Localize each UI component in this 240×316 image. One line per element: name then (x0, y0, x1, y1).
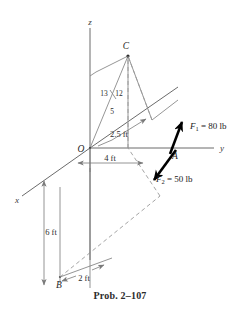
force-f1-label: F1 = 80 lb (189, 121, 227, 132)
dim-2-5-ft-group: 2.5 ft (98, 119, 146, 146)
y-axis-label: y (219, 143, 224, 153)
construction-group (59, 54, 178, 278)
force-f2-label: F2 = 50 lb (155, 174, 193, 185)
force-f1-value: 80 lb (208, 121, 227, 131)
axis-group (22, 28, 214, 260)
dim-4-ft-group: 4 ft (78, 148, 143, 172)
dim-2-5-ft-label: 2.5 ft (110, 129, 129, 139)
x-axis-label: x (14, 195, 19, 205)
figure-caption: Prob. 2–107 (0, 290, 240, 301)
dim-2-ft-left-arrow (62, 276, 76, 281)
point-a-label: A (171, 151, 178, 161)
line-c-to-z-axis (96, 56, 128, 72)
x-axis-line (22, 148, 90, 196)
dashed-mid-to-base (128, 148, 160, 196)
force-f1-equals: = (199, 121, 209, 131)
slope-triangle-hypotenuse-label: 13 (100, 89, 108, 98)
z-axis-label: z (87, 17, 92, 27)
dim-4-ft-label: 4 ft (104, 153, 116, 163)
dim-2-ft-right-arrow (92, 265, 104, 270)
dim-6-ft-label: 6 ft (45, 227, 57, 237)
force-f2-value: 50 lb (174, 174, 193, 184)
line-base-corner-to-oblique (152, 100, 178, 120)
statics-diagram: 2.5 ft 4 ft 6 ft 2 ft 13 12 5 (0, 0, 240, 316)
dim-2-ft-label: 2 ft (78, 273, 90, 283)
line-z-tie-segment (90, 72, 96, 76)
dashed-group (60, 56, 160, 277)
figure-root: 2.5 ft 4 ft 6 ft 2 ft 13 12 5 (0, 0, 240, 316)
point-c-label: C (123, 41, 130, 51)
point-b-label: B (56, 280, 62, 290)
point-o-label: O (78, 144, 85, 154)
dashed-b-to-mid (60, 196, 160, 277)
force-f1-arrow (170, 122, 182, 154)
dim-6-ft-group: 6 ft (44, 181, 60, 285)
slope-triangle-horizontal-label: 5 (110, 107, 114, 116)
slope-triangle-group: 13 12 5 (100, 89, 123, 116)
dim-2-ft-group: 2 ft (60, 168, 112, 288)
force-f2-equals: = (165, 174, 175, 184)
slope-triangle-vertical-label: 12 (115, 89, 123, 98)
